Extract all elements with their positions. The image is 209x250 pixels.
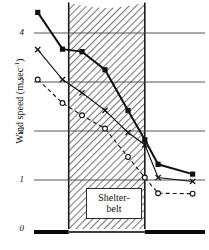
marker-filled-square (155, 162, 160, 167)
marker-open-circle (142, 175, 147, 180)
marker-open-circle (103, 126, 108, 131)
y-axis-title: Wind speed (m sec-1) (13, 36, 25, 166)
marker-filled-square (102, 67, 107, 72)
marker-open-circle (126, 155, 131, 160)
marker-filled-square (125, 108, 130, 113)
marker-filled-square (35, 10, 40, 15)
marker-filled-square (79, 49, 84, 54)
shelterbelt-label-line1: Shelter- (89, 192, 139, 203)
y-axis-title-exponent: -1 (13, 62, 21, 68)
marker-open-circle (35, 77, 40, 82)
wind-speed-shelterbelt-chart: 01234 Wind speed (m sec-1) Shelter- belt (0, 0, 209, 250)
y-tick-label-1: 1 (10, 174, 24, 184)
marker-filled-square (190, 172, 195, 177)
y-axis-title-text: Wind speed (m sec (14, 68, 25, 144)
marker-cross (35, 47, 40, 52)
marker-filled-square (60, 47, 65, 52)
shelterbelt-label: Shelter- belt (86, 188, 142, 219)
marker-cross (60, 77, 65, 82)
marker-open-circle (156, 191, 161, 196)
shelterbelt-label-line2: belt (89, 203, 139, 214)
marker-open-circle (60, 101, 65, 106)
marker-open-circle (80, 113, 85, 118)
y-tick-label-0: 0 (10, 223, 24, 233)
marker-open-circle (190, 191, 195, 196)
y-axis-title-close: ) (14, 59, 25, 62)
marker-filled-square (142, 137, 147, 142)
